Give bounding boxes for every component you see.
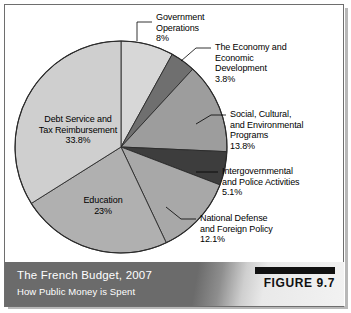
figure-number-label: FIGURE 9.7 — [264, 276, 335, 290]
callout-nd-line2: and Foreign Policy — [200, 224, 273, 235]
callout-economy: The Economy and Economic Development 3.8… — [215, 42, 287, 84]
inside-debt-line1: Debt Service and — [22, 114, 134, 125]
callout-ec-line4: 3.8% — [215, 74, 287, 85]
inside-label-debt-service: Debt Service and Tax Reimbursement 33.8% — [22, 114, 134, 146]
figure-container: Government Operations 8% The Economy and… — [0, 0, 351, 313]
callout-ec-line1: The Economy and — [215, 42, 287, 53]
inside-debt-line2: Tax Reimbursement — [22, 125, 134, 136]
callout-nd-line1: National Defense — [200, 213, 273, 224]
callout-ec-line2: Economic — [215, 53, 287, 64]
leader-line-economy — [181, 48, 211, 61]
callout-defense: National Defense and Foreign Policy 12.1… — [200, 213, 273, 245]
pie-slices — [15, 41, 227, 253]
inside-edu-line1: Education — [62, 195, 144, 206]
callout-government-operations: Government Operations 8% — [156, 12, 205, 44]
callout-ig-line2: and Police Activities — [222, 177, 299, 188]
callout-ec-line3: Development — [215, 63, 287, 74]
callout-nd-line3: 12.1% — [200, 234, 273, 245]
figure-caption-bar: The French Budget, 2007 How Public Money… — [5, 262, 344, 306]
callout-sc-line2: and Environmental — [230, 120, 303, 131]
callout-sc-line1: Social, Cultural, — [230, 109, 303, 120]
callout-intergovernmental: Intergovernmental and Police Activities … — [222, 166, 299, 198]
figure-number-bar — [255, 267, 335, 274]
inside-label-education: Education 23% — [62, 195, 144, 216]
callout-social: Social, Cultural, and Environmental Prog… — [230, 109, 303, 151]
callout-sc-line3: Programs — [230, 130, 303, 141]
inside-edu-line2: 23% — [62, 206, 144, 217]
inside-debt-line3: 33.8% — [22, 135, 134, 146]
caption-subtitle: How Public Money is Spent — [17, 286, 135, 297]
leader-line-government-operations — [137, 22, 152, 41]
callout-go-line3: 8% — [156, 33, 205, 44]
callout-go-line2: Operations — [156, 23, 205, 34]
caption-title: The French Budget, 2007 — [17, 269, 152, 281]
callout-ig-line3: 5.1% — [222, 187, 299, 198]
callout-ig-line1: Intergovernmental — [222, 166, 299, 177]
callout-sc-line4: 13.8% — [230, 141, 303, 152]
callout-go-line1: Government — [156, 12, 205, 23]
